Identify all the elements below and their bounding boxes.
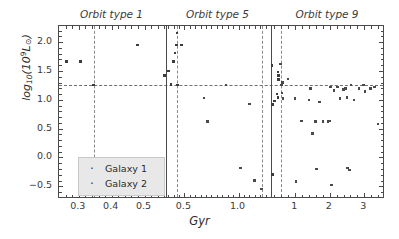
data-point <box>225 84 228 87</box>
data-point <box>79 60 82 63</box>
data-point <box>329 86 332 89</box>
x-axis-tick-label: 2 <box>316 200 342 211</box>
x-axis-minor-tick <box>168 26 169 29</box>
panel-title-orbit-type-1: Orbit type 1 <box>58 8 165 20</box>
legend-label-galaxy-1: Galaxy 1 <box>105 163 147 174</box>
scatter-figure: log10(109L⊙) Gyr Orbit type 1 Orbit type… <box>0 0 399 239</box>
data-point <box>333 89 336 92</box>
y-axis-tick-label: 1.0 <box>26 93 52 104</box>
x-axis-tick-mark <box>184 193 185 197</box>
x-axis-minor-tick <box>195 195 196 198</box>
y-axis-label-exponent: 9 <box>19 51 28 56</box>
x-axis-minor-tick <box>211 26 212 29</box>
y-axis-tick-label: 0.0 <box>26 150 52 161</box>
data-point <box>277 74 280 77</box>
data-point <box>174 52 177 55</box>
x-axis-minor-tick <box>201 26 202 29</box>
vertical-reference-line <box>281 26 282 197</box>
x-axis-minor-tick <box>211 195 212 198</box>
x-axis-minor-tick <box>228 26 229 29</box>
x-axis-minor-tick <box>316 195 317 198</box>
legend-marker-icon: · <box>85 180 99 188</box>
legend-item-galaxy-1[interactable]: · Galaxy 1 <box>79 161 164 176</box>
data-point <box>273 100 276 103</box>
data-point <box>248 103 251 106</box>
x-axis-tick-mark <box>184 26 185 30</box>
x-axis-minor-tick <box>302 195 303 198</box>
data-point <box>294 97 297 100</box>
legend: · Galaxy 1 · Galaxy 2 <box>78 157 165 196</box>
x-axis-minor-tick <box>158 26 159 29</box>
x-axis-minor-tick <box>174 195 175 198</box>
x-axis-minor-tick <box>255 195 256 198</box>
y-axis-tick-label: 2.0 <box>26 35 52 46</box>
data-point <box>271 64 273 67</box>
data-point <box>281 92 284 95</box>
x-axis-minor-tick <box>195 26 196 29</box>
x-axis-minor-tick <box>281 195 282 198</box>
x-axis-tick-mark <box>79 26 80 30</box>
data-point <box>358 87 361 90</box>
x-axis-tick-mark <box>295 26 296 30</box>
x-axis-minor-tick <box>72 26 73 29</box>
x-axis-minor-tick <box>337 195 338 198</box>
y-axis-label-luminosity: L <box>20 45 33 51</box>
x-axis-minor-tick <box>92 26 93 29</box>
x-axis-minor-tick <box>66 26 67 29</box>
x-axis-minor-tick <box>316 26 317 29</box>
data-point <box>328 120 331 123</box>
x-axis-tick-label: 0.4 <box>98 200 124 211</box>
x-axis-minor-tick <box>85 26 86 29</box>
panel-title-orbit-type-5: Orbit type 5 <box>165 8 270 20</box>
x-axis-minor-tick <box>233 195 234 198</box>
data-point <box>281 81 284 84</box>
y-axis-tick-label: 0.5 <box>26 122 52 133</box>
x-axis-minor-tick <box>72 195 73 198</box>
x-axis-minor-tick <box>371 26 372 29</box>
data-point <box>172 60 175 63</box>
x-axis-minor-tick <box>206 195 207 198</box>
data-point <box>253 179 256 182</box>
vertical-reference-line <box>262 26 263 197</box>
x-axis-minor-tick <box>274 195 275 198</box>
data-point <box>65 60 68 63</box>
x-axis-minor-tick <box>138 26 139 29</box>
data-point <box>271 173 274 176</box>
x-axis-tick-mark <box>239 26 240 30</box>
data-point <box>206 120 209 123</box>
x-axis-minor-tick <box>222 26 223 29</box>
panel-title-orbit-type-9: Orbit type 9 <box>270 8 384 20</box>
data-point <box>279 63 282 66</box>
x-axis-minor-tick <box>344 195 345 198</box>
x-axis-minor-tick <box>233 26 234 29</box>
x-axis-tick-label: 3 <box>350 200 376 211</box>
legend-item-galaxy-2[interactable]: · Galaxy 2 <box>79 176 164 191</box>
x-axis-tick-label: 1.0 <box>225 200 251 211</box>
data-point <box>175 44 178 47</box>
data-point <box>180 44 183 47</box>
x-axis-minor-tick <box>344 26 345 29</box>
x-axis-minor-tick <box>217 195 218 198</box>
data-point <box>353 99 356 102</box>
data-point <box>373 86 376 89</box>
x-axis-minor-tick <box>302 26 303 29</box>
x-axis-tick-mark <box>295 193 296 197</box>
x-axis-minor-tick <box>125 26 126 29</box>
data-point <box>170 83 173 86</box>
x-axis-tick-mark <box>364 26 365 30</box>
data-point <box>136 44 139 47</box>
x-axis-minor-tick <box>357 26 358 29</box>
data-point <box>311 132 314 135</box>
data-point <box>348 169 351 172</box>
x-axis-tick-mark <box>364 193 365 197</box>
x-axis-minor-tick <box>206 26 207 29</box>
x-axis-minor-tick <box>217 26 218 29</box>
vertical-reference-line <box>177 26 178 197</box>
x-axis-minor-tick <box>179 26 180 29</box>
x-axis-minor-tick <box>337 26 338 29</box>
x-axis-minor-tick <box>378 195 379 198</box>
data-point <box>330 184 333 187</box>
data-point <box>336 86 339 89</box>
data-point <box>346 96 349 99</box>
legend-label-galaxy-2: Galaxy 2 <box>105 178 147 189</box>
